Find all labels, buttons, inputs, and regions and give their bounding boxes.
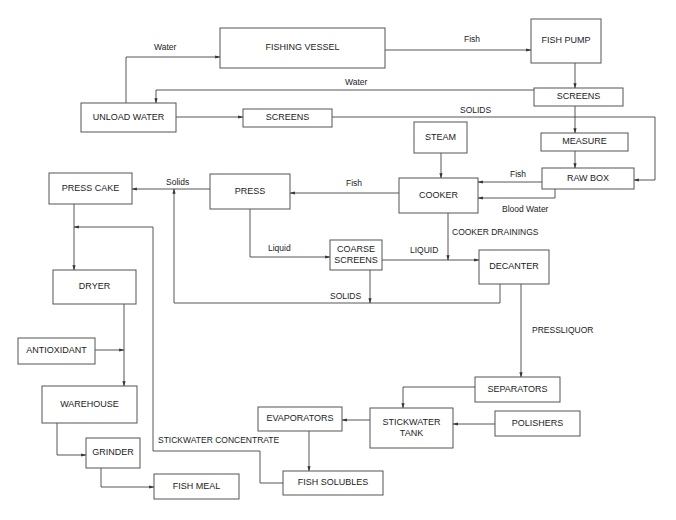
node-screens1: SCREENS bbox=[243, 109, 332, 127]
edge-label: Water bbox=[345, 77, 368, 87]
node-label: STICKWATER bbox=[383, 417, 441, 427]
edge-screens-to-unload bbox=[156, 90, 534, 103]
edge-label: LIQUID bbox=[410, 245, 438, 255]
node-label: FISH SOLUBLES bbox=[298, 477, 369, 487]
edge-label: COOKER DRAININGS bbox=[452, 227, 539, 237]
node-label: ANTIOXIDANT bbox=[26, 345, 87, 355]
node-separators: SEPARATORS bbox=[475, 377, 560, 402]
edge-label: SOLIDS bbox=[330, 291, 362, 301]
node-coarse-screens: COARSESCREENS bbox=[330, 240, 382, 270]
node-label: FISH MEAL bbox=[173, 481, 221, 491]
node-fish-solubles: FISH SOLUBLES bbox=[283, 471, 383, 495]
node-stickwater-tank: STICKWATERTANK bbox=[370, 408, 453, 448]
node-label: TANK bbox=[400, 428, 423, 438]
node-label: SCREENS bbox=[266, 112, 310, 122]
node-label: DRYER bbox=[79, 281, 111, 291]
node-label: UNLOAD WATER bbox=[93, 112, 165, 122]
node-fishing-vessel: FISHING VESSEL bbox=[220, 28, 385, 68]
node-antioxidant: ANTIOXIDANT bbox=[18, 338, 95, 364]
node-label: WAREHOUSE bbox=[60, 399, 119, 409]
node-label: SCREENS bbox=[334, 255, 378, 265]
edge-label: Blood Water bbox=[502, 204, 549, 214]
node-grinder: GRINDER bbox=[86, 438, 140, 468]
edge-separators-to-stickwater bbox=[403, 387, 475, 408]
node-label: PRESS bbox=[235, 186, 266, 196]
edge-label: STICKWATER CONCENTRATE bbox=[158, 435, 280, 445]
node-screens2: SCREENS bbox=[534, 88, 623, 106]
edge-warehouse-to-grinder bbox=[57, 423, 86, 455]
edge-label: Fish bbox=[346, 178, 362, 188]
node-label: COARSE bbox=[337, 244, 375, 254]
node-label: SEPARATORS bbox=[487, 384, 547, 394]
node-warehouse: WAREHOUSE bbox=[42, 386, 137, 423]
process-nodes: FISHING VESSELFISH PUMPUNLOAD WATERSCREE… bbox=[18, 19, 634, 499]
node-label: COOKER bbox=[419, 190, 459, 200]
node-label: POLISHERS bbox=[512, 418, 564, 428]
node-label: FISHING VESSEL bbox=[265, 42, 339, 52]
node-steam: STEAM bbox=[414, 122, 467, 153]
edge-label: SOLIDS bbox=[460, 105, 492, 115]
edge-label: PRESSLIQUOR bbox=[532, 325, 593, 335]
node-fish-meal: FISH MEAL bbox=[154, 474, 239, 499]
node-polishers: POLISHERS bbox=[495, 411, 580, 436]
node-cooker: COOKER bbox=[399, 178, 478, 213]
node-press-cake: PRESS CAKE bbox=[49, 173, 132, 204]
node-press: PRESS bbox=[210, 174, 290, 209]
node-measure: MEASURE bbox=[541, 133, 628, 151]
fish-meal-process-flow-diagram: FISHING VESSELFISH PUMPUNLOAD WATERSCREE… bbox=[0, 0, 676, 520]
edge-rawbox-bloodwater-to-cooker bbox=[478, 189, 555, 198]
edge-label: Fish bbox=[510, 169, 526, 179]
node-decanter: DECANTER bbox=[479, 250, 549, 284]
edge-label: Liquid bbox=[268, 243, 291, 253]
node-label: SCREENS bbox=[557, 91, 601, 101]
edge-unload-to-vessel bbox=[126, 57, 220, 103]
node-label: FISH PUMP bbox=[541, 35, 590, 45]
node-label: EVAPORATORS bbox=[266, 413, 333, 423]
node-evaporators: EVAPORATORS bbox=[258, 407, 342, 431]
node-fish-pump: FISH PUMP bbox=[531, 19, 601, 63]
edge-label: Fish bbox=[464, 34, 480, 44]
node-label: RAW BOX bbox=[567, 173, 609, 183]
node-label: MEASURE bbox=[562, 136, 607, 146]
node-label: PRESS CAKE bbox=[62, 183, 120, 193]
edge-label: Solids bbox=[166, 177, 189, 187]
node-label: GRINDER bbox=[92, 447, 134, 457]
node-raw-box: RAW BOX bbox=[542, 168, 634, 189]
node-unload-water: UNLOAD WATER bbox=[81, 103, 176, 132]
node-dryer: DRYER bbox=[53, 270, 136, 304]
node-label: DECANTER bbox=[489, 261, 539, 271]
edge-grinder-to-fishmeal bbox=[101, 468, 154, 487]
edge-label: Water bbox=[154, 42, 177, 52]
node-label: STEAM bbox=[425, 132, 456, 142]
